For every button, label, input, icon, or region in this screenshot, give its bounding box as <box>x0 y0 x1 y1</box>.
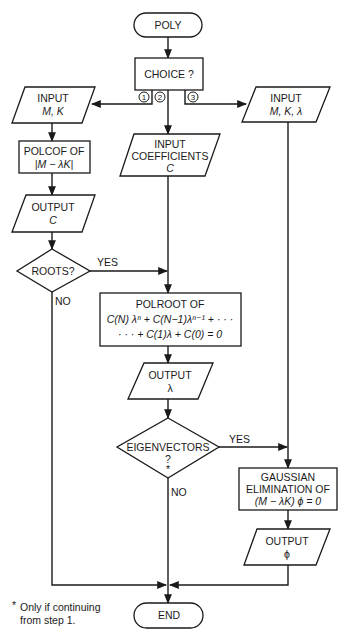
svg-text:ROOTS?: ROOTS? <box>31 265 74 277</box>
svg-text:INPUT: INPUT <box>270 92 302 104</box>
output-lambda-io: OUTPUT λ <box>128 363 213 399</box>
start-label: POLY <box>154 19 181 31</box>
svg-text:ELIMINATION OF: ELIMINATION OF <box>246 483 330 495</box>
branch-marker-3: 3 <box>188 92 198 102</box>
choice-box: CHOICE ? <box>135 58 203 90</box>
input-coefficients-io: INPUT COEFFICIENTS C <box>120 134 220 176</box>
svg-text:1: 1 <box>142 93 147 102</box>
polcof-box: POLCOF OF |M − λK| <box>19 141 90 173</box>
svg-text:M, K: M, K <box>42 105 65 117</box>
polroot-box: POLROOT OF C(N) λⁿ + C(N−1)λⁿ⁻¹ + · · · … <box>100 293 241 346</box>
svg-text:C: C <box>49 214 57 226</box>
gaussian-box: GAUSSIAN ELIMINATION OF (M − λK) ϕ = 0 <box>239 468 337 510</box>
svg-text:M, K, λ: M, K, λ <box>270 105 303 117</box>
flowchart: POLY CHOICE ? 1 2 3 INPUT M, K POLCOF OF… <box>0 0 346 639</box>
output-phi-io: OUTPUT ϕ <box>244 529 330 565</box>
svg-text:Only if continuing: Only if continuing <box>20 601 101 613</box>
svg-text:COEFFICIENTS: COEFFICIENTS <box>131 150 208 162</box>
svg-text:C(N) λⁿ + C(N−1)λⁿ⁻¹ + · · ·: C(N) λⁿ + C(N−1)λⁿ⁻¹ + · · · <box>107 313 234 325</box>
eigenvectors-decision: EIGENVECTORS ? * <box>117 418 219 478</box>
edge-output-phi-end <box>170 565 288 585</box>
eigen-no-label: NO <box>171 486 187 498</box>
svg-text:GAUSSIAN: GAUSSIAN <box>261 471 315 483</box>
branch-marker-2: 2 <box>155 92 165 102</box>
svg-text:OUTPUT: OUTPUT <box>148 369 192 381</box>
input-mk-io: INPUT M, K <box>12 87 95 123</box>
branch-marker-1: 1 <box>139 92 149 102</box>
svg-text:POLROOT OF: POLROOT OF <box>136 298 205 310</box>
input-mk-lambda-io: INPUT M, K, λ <box>242 87 330 122</box>
svg-text:POLCOF OF: POLCOF OF <box>24 145 85 157</box>
start-terminator: POLY <box>134 13 202 37</box>
svg-text:C: C <box>166 162 174 174</box>
svg-text:INPUT: INPUT <box>37 92 69 104</box>
svg-text:OUTPUT: OUTPUT <box>31 201 75 213</box>
roots-no-label: NO <box>55 295 71 307</box>
svg-text:*: * <box>166 463 170 475</box>
svg-text:2: 2 <box>158 93 163 102</box>
svg-text:λ: λ <box>167 382 173 394</box>
svg-text:· · · + C(1)λ + C(0) = 0: · · · + C(1)λ + C(0) = 0 <box>118 328 222 340</box>
svg-text:from step 1.: from step 1. <box>20 614 75 626</box>
svg-text:ϕ: ϕ <box>284 548 290 560</box>
end-label: END <box>158 609 181 621</box>
output-c-io: OUTPUT C <box>12 195 95 232</box>
roots-yes-label: YES <box>97 256 118 268</box>
eigen-yes-label: YES <box>229 433 250 445</box>
svg-text:INPUT: INPUT <box>154 138 186 150</box>
svg-text:OUTPUT: OUTPUT <box>265 535 309 547</box>
footnote: * Only if continuing from step 1. <box>12 599 101 626</box>
svg-text:(M − λK) ϕ = 0: (M − λK) ϕ = 0 <box>255 495 322 507</box>
svg-text:*: * <box>12 599 16 611</box>
svg-text:|M − λK|: |M − λK| <box>35 158 73 170</box>
svg-text:EIGENVECTORS: EIGENVECTORS <box>126 441 209 453</box>
end-terminator: END <box>134 603 203 628</box>
choice-label: CHOICE ? <box>144 68 194 80</box>
roots-decision: ROOTS? <box>17 249 90 292</box>
svg-text:3: 3 <box>191 93 196 102</box>
